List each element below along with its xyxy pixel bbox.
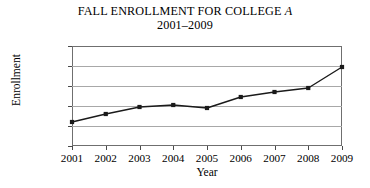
data-point-marker <box>137 105 141 109</box>
chart-title-block: FALL ENROLLMENT FOR COLLEGE A 2001–2009 <box>0 4 370 33</box>
x-tick-mark <box>173 146 174 150</box>
x-tick-mark <box>342 146 343 150</box>
data-point-marker <box>70 120 74 124</box>
plot-area: 01,0002,0003,0004,0005,000 2001200220032… <box>72 46 342 146</box>
x-tick-mark <box>275 146 276 150</box>
x-tick-mark <box>241 146 242 150</box>
data-point-marker <box>205 106 209 110</box>
x-tick-mark <box>207 146 208 150</box>
chart-title-text: FALL ENROLLMENT FOR COLLEGE <box>78 4 285 18</box>
y-axis-title: Enrollment <box>10 40 22 120</box>
x-tick-mark <box>72 146 73 150</box>
x-tick-mark <box>140 146 141 150</box>
enrollment-line <box>72 67 342 122</box>
enrollment-series <box>72 46 342 146</box>
data-point-marker <box>340 65 344 69</box>
x-axis-title: Year <box>72 166 342 178</box>
data-point-marker <box>239 95 243 99</box>
chart-subtitle: 2001–2009 <box>0 18 370 32</box>
chart-title-college-letter: A <box>285 4 293 18</box>
chart-title: FALL ENROLLMENT FOR COLLEGE A <box>0 4 370 18</box>
x-tick-mark <box>106 146 107 150</box>
enrollment-markers <box>70 65 344 124</box>
data-point-marker <box>306 86 310 90</box>
enrollment-line-chart-figure: FALL ENROLLMENT FOR COLLEGE A 2001–2009 … <box>0 0 370 188</box>
data-point-marker <box>104 112 108 116</box>
data-point-marker <box>272 90 276 94</box>
x-tick-mark <box>308 146 309 150</box>
x-tick-label: 2009 <box>322 152 362 164</box>
data-point-marker <box>171 103 175 107</box>
